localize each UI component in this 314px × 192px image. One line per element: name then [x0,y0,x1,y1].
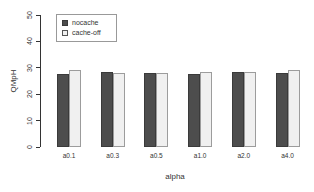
x-tick-label-a4.0: a4.0 [281,152,294,159]
bar-cache-off-a0.3 [113,73,125,147]
bar-cache-off-a0.1 [69,70,81,147]
bar-nocache-a0.1 [57,74,69,147]
cache-off-swatch-icon [62,30,68,36]
bar-nocache-a1.0 [188,74,200,147]
nocache-swatch-icon [62,20,68,26]
x-axis-title: alpha [165,172,185,181]
x-tick-label-a0.1: a0.1 [63,152,76,159]
y-tick-mark [36,67,40,68]
bar-cache-off-a4.0 [288,70,300,147]
bar-nocache-a2.0 [232,72,244,147]
y-tick-label: 30 [26,64,33,72]
y-tick-mark [36,41,40,42]
legend-item-nocache: nocache [62,18,112,28]
x-tick-label-a0.3: a0.3 [106,152,119,159]
bar-chart: QMpH 01020304050 a0.1a0.3a0.5a1.0a2.0a4.… [0,0,314,192]
bar-cache-off-a2.0 [244,72,256,147]
bar-cache-off-a0.5 [156,73,168,147]
bar-nocache-a4.0 [276,73,288,147]
y-tick-mark [36,147,40,148]
y-axis-title: QMpH [9,69,18,92]
bar-cache-off-a1.0 [200,72,212,147]
bar-nocache-a0.3 [101,72,113,147]
x-tick-label-a1.0: a1.0 [194,152,207,159]
y-tick-mark [36,94,40,95]
y-tick-label: 20 [26,90,33,98]
legend: nocache cache-off [56,14,117,42]
y-tick-label: 50 [26,11,33,19]
legend-label-cache-off: cache-off [72,29,101,37]
y-axis-line [40,15,41,147]
x-tick-label-a0.5: a0.5 [150,152,163,159]
y-tick-label: 40 [26,37,33,45]
legend-label-nocache: nocache [72,19,98,27]
legend-item-cache-off: cache-off [62,28,112,38]
x-tick-label-a2.0: a2.0 [237,152,250,159]
y-tick-mark [36,15,40,16]
y-tick-mark [36,120,40,121]
y-tick-label: 10 [26,117,33,125]
bar-nocache-a0.5 [144,73,156,147]
y-tick-label: 0 [26,145,33,149]
